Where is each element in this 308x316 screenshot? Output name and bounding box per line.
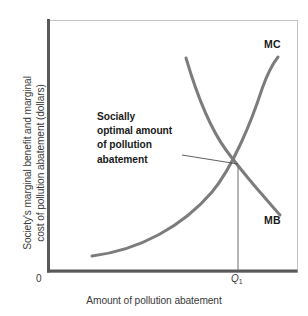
annotation-line-4: abatement xyxy=(97,153,189,167)
annotation-line-2: optimal amount xyxy=(97,124,189,138)
annotation-line-1: Socially xyxy=(97,110,189,124)
origin-tick-label: 0 xyxy=(36,273,42,284)
annotation-line-3: of pollution xyxy=(97,138,189,152)
economics-figure: Society's marginal benefit and marginal … xyxy=(0,0,308,316)
q1-tick-label: Q1 xyxy=(231,273,243,285)
q1-base: Q xyxy=(231,273,239,284)
mb-curve-label: MB xyxy=(264,214,281,226)
mc-curve-label: MC xyxy=(264,38,281,50)
socially-optimal-annotation: Socially optimal amount of pollution aba… xyxy=(97,110,189,167)
q1-subscript: 1 xyxy=(239,278,243,285)
x-axis-title: Amount of pollution abatement xyxy=(0,295,308,306)
